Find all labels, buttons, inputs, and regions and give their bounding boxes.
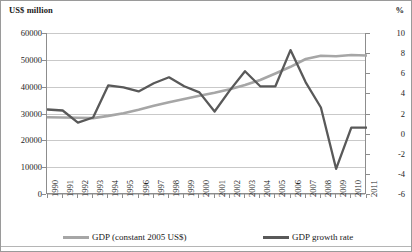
x-axis-tickmark [77,194,78,198]
left-axis-tick: 50000 [1,56,42,64]
x-axis-tickmark [305,194,306,198]
left-axis-tickmark [42,114,46,115]
left-axis-tickmark [42,87,46,88]
left-axis-tick: 0 [1,190,42,198]
x-axis-tickmark [183,194,184,198]
left-axis-unit-label: US$ million [9,5,53,15]
x-axis-tickmark [198,194,199,198]
x-axis-tick: 2006 [294,180,303,197]
left-axis-tick: 30000 [1,110,42,118]
x-axis-tickmark [153,194,154,198]
right-axis-tickmark [366,73,370,74]
x-axis-tickmark [229,194,230,198]
left-axis-tickmark [42,60,46,61]
left-axis-tickmark [42,33,46,34]
left-axis-tick: 40000 [1,83,42,91]
x-axis-tickmark [335,194,336,198]
legend-swatch [63,236,89,239]
x-axis-tickmark [274,194,275,198]
x-axis-tick: 2007 [309,180,318,197]
x-axis-tickmark [47,194,48,198]
right-axis-tick: -4 [371,170,405,178]
right-axis-tickmark [366,114,370,115]
legend-gdp-level[interactable]: GDP (constant 2005 US$) [63,232,186,242]
right-axis-unit-label: % [396,5,405,15]
gdp-growth-line [48,50,367,169]
x-axis-tick: 2011 [370,180,379,197]
x-axis-tickmark [92,194,93,198]
x-axis-tick: 2004 [263,180,272,197]
x-axis-tick: 1990 [51,180,60,197]
legend-swatch [263,236,289,239]
right-axis-tick: 10 [371,29,405,37]
right-axis-tickmark [366,53,370,54]
x-axis-tickmark [366,194,367,198]
plot-area [46,33,366,194]
left-axis-tickmark [42,140,46,141]
chart-figure: US$ million % 01000020000300004000050000… [0,0,412,252]
legend-label: GDP (constant 2005 US$) [92,232,186,242]
x-axis-tick: 2002 [233,180,242,197]
left-axis-tick: 60000 [1,29,42,37]
x-axis-tickmark [290,194,291,198]
x-axis-tick: 2003 [248,180,257,197]
left-axis-tick: 10000 [1,163,42,171]
x-axis-tick: 2009 [339,180,348,197]
right-axis-tick: 6 [371,69,405,77]
right-axis-tick: 2 [371,110,405,118]
right-axis-tickmark [366,174,370,175]
x-axis-tickmark [138,194,139,198]
legend-separator [1,246,411,247]
x-axis-tick: 1998 [172,180,181,197]
x-axis-tickmark [62,194,63,198]
x-axis-tickmark [107,194,108,198]
x-axis-tick: 1999 [187,180,196,197]
x-axis-tick: 1992 [81,180,90,197]
right-axis-tickmark [366,93,370,94]
x-axis-tick: 1996 [142,180,151,197]
right-axis-tick: 0 [371,130,405,138]
left-axis-tickmark [42,167,46,168]
x-axis-tickmark [350,194,351,198]
x-axis-tickmark [214,194,215,198]
right-axis-tickmark [366,134,370,135]
x-axis-tick: 1994 [111,180,120,197]
x-axis-tick: 2008 [324,180,333,197]
x-axis-tick: 2001 [218,180,227,197]
x-axis-tick: 1995 [126,180,135,197]
right-axis-tick: -2 [371,150,405,158]
right-axis-tick: 4 [371,89,405,97]
x-axis-tickmark [168,194,169,198]
x-axis-tick: 2000 [202,180,211,197]
x-axis-tick: 1997 [157,180,166,197]
legend-label: GDP growth rate [292,232,353,242]
x-axis-tickmark [259,194,260,198]
legend-gdp-growth[interactable]: GDP growth rate [263,232,353,242]
chart-legend: GDP (constant 2005 US$)GDP growth rate [1,231,411,247]
right-axis-tick: 8 [371,49,405,57]
x-axis-tickmark [320,194,321,198]
x-axis-tickmark [244,194,245,198]
x-axis-tick: 2010 [354,180,363,197]
right-axis-tickmark [366,33,370,34]
x-axis-tickmark [122,194,123,198]
x-axis-tick: 1991 [66,180,75,197]
right-axis-tickmark [366,154,370,155]
gdp-level-line [48,55,367,118]
left-axis-tick: 20000 [1,136,42,144]
left-axis-tickmark [42,194,46,195]
x-axis-tick: 1993 [96,180,105,197]
x-axis-tick: 2005 [278,180,287,197]
series-lines [47,33,367,194]
